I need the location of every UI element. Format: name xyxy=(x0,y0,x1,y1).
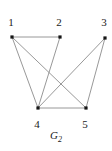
graph-vertex-1 xyxy=(10,35,13,38)
caption-base: G xyxy=(50,129,58,141)
vertex-label-3: 3 xyxy=(101,17,107,28)
graph-edge-1-4 xyxy=(12,37,38,108)
vertex-label-1: 1 xyxy=(8,17,14,28)
graph-vertex-2 xyxy=(58,35,61,38)
edge-layer xyxy=(12,37,105,108)
graph-vertex-5 xyxy=(84,106,87,109)
caption-subscript: 2 xyxy=(58,135,62,144)
vertex-label-2: 2 xyxy=(56,17,62,28)
graph-edge-3-4 xyxy=(38,38,105,108)
figure-caption: G2 xyxy=(50,130,62,144)
vertex-label-5: 5 xyxy=(82,119,88,130)
graph-vertex-4 xyxy=(36,106,39,109)
graph-vertex-3 xyxy=(103,36,106,39)
graph-edge-2-4 xyxy=(38,37,60,108)
graph-figure: 12345 G2 xyxy=(0,0,112,151)
vertex-label-4: 4 xyxy=(34,119,40,130)
